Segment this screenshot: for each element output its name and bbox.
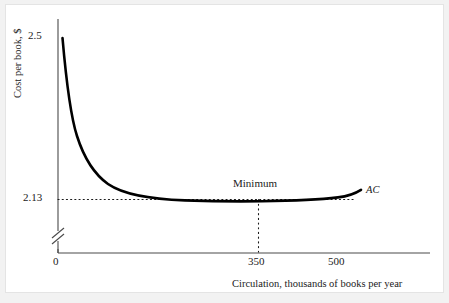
y-axis-tick-2-13: 2.13 bbox=[23, 192, 42, 203]
average-cost-curve bbox=[63, 38, 362, 201]
y-axis-label: Cost per book, $ bbox=[13, 7, 24, 119]
axis-origin-label: 0 bbox=[53, 256, 59, 267]
x-axis-label: Circulation, thousands of books per year bbox=[232, 279, 402, 290]
x-axis-tick-350: 350 bbox=[248, 256, 265, 267]
figure-page: Cost per book, $ 2.5 2.13 0 350 500 Circ… bbox=[0, 0, 449, 303]
y-axis-tick-2-5: 2.5 bbox=[28, 30, 42, 41]
x-axis-tick-500: 500 bbox=[328, 256, 345, 267]
minimum-annotation: Minimum bbox=[233, 178, 277, 189]
curve-label-ac: AC bbox=[366, 185, 379, 196]
average-cost-curve-chart bbox=[0, 0, 449, 303]
